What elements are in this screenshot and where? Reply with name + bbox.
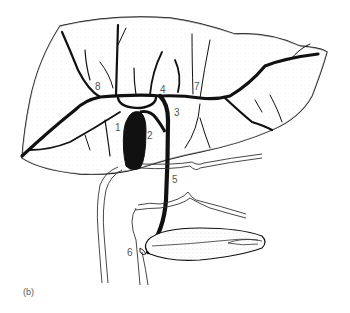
label-3: 3 xyxy=(174,108,180,118)
label-6: 6 xyxy=(127,248,133,258)
label-8: 8 xyxy=(95,82,101,92)
ampulla xyxy=(140,248,146,255)
panel-label: (b) xyxy=(23,287,34,297)
label-5: 5 xyxy=(172,175,178,185)
duodenum xyxy=(97,154,262,285)
label-7: 7 xyxy=(194,82,200,92)
label-2: 2 xyxy=(147,131,153,141)
label-1: 1 xyxy=(115,123,121,133)
pancreas xyxy=(145,228,265,260)
gallbladder xyxy=(123,112,146,170)
biliary-anatomy-diagram xyxy=(0,0,350,313)
label-4: 4 xyxy=(160,85,166,95)
